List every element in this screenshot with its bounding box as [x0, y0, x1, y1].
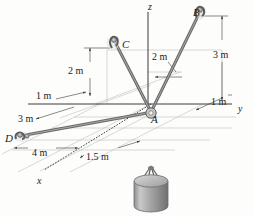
dim-a-x-offset-label: 1.5 m	[86, 152, 109, 162]
dim-d-run-label: 4 m	[32, 148, 47, 158]
dim-d-offset-label: 3 m	[18, 114, 33, 124]
dim-b-height-label: 3 m	[213, 50, 228, 60]
anchor-c	[107, 37, 120, 50]
point-c-label: C	[122, 39, 129, 50]
dim-c-offset-label: 1 m	[36, 91, 51, 101]
x-axis-label: x	[37, 176, 41, 186]
statics-diagram-figure: z y x A B C D 3 m 1 m 2 m 2 m 1 m 3 m 4 …	[0, 0, 253, 217]
y-axis-label: y	[238, 104, 242, 114]
dim-c-height-label: 2 m	[68, 66, 83, 76]
point-d-label: D	[5, 133, 13, 144]
anchor-d	[14, 132, 30, 142]
point-b-label: B	[193, 7, 200, 18]
dim-b-offset-label: 1 m	[211, 97, 226, 107]
suspended-cylinder-load	[134, 166, 168, 212]
z-axis-label: z	[148, 2, 152, 12]
dim-a-to-b-run-label: 2 m	[152, 52, 167, 62]
point-a-label: A	[151, 114, 158, 125]
